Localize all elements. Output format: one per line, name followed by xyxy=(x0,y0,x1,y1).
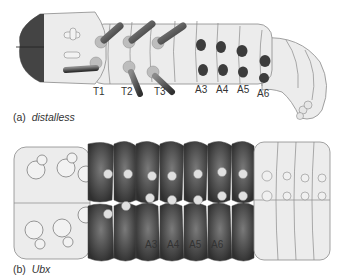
caption-a: (a) distalless xyxy=(13,112,75,123)
caption-a-gene: distalless xyxy=(32,111,75,123)
label-t2: T2 xyxy=(121,87,133,97)
caption-a-letter: (a) xyxy=(13,111,26,123)
label-a4: A4 xyxy=(216,85,228,95)
caption-b: (b) Ubx xyxy=(13,264,50,275)
label-t3: T3 xyxy=(154,87,166,97)
label-b-a5: A5 xyxy=(189,240,201,250)
label-t1: T1 xyxy=(93,87,105,97)
label-b-a6: A6 xyxy=(211,240,223,250)
label-a3: A3 xyxy=(195,85,207,95)
figure xyxy=(0,0,344,278)
caption-b-letter: (b) xyxy=(13,263,26,275)
caterpillar-distalless xyxy=(16,12,327,120)
caption-b-gene: Ubx xyxy=(32,263,51,275)
label-b-a3: A3 xyxy=(145,240,157,250)
label-b-a4: A4 xyxy=(167,240,179,250)
label-a6: A6 xyxy=(257,89,269,99)
label-a5: A5 xyxy=(237,85,249,95)
